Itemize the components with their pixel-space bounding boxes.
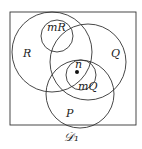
label-mQ: mQ: [78, 80, 97, 93]
label-mR: mR: [47, 21, 66, 34]
label-R: R: [22, 47, 31, 60]
label-P: P: [65, 107, 74, 120]
caption: 𝒟₁: [64, 130, 79, 144]
label-Q: Q: [111, 47, 120, 60]
venn-diagram: mR R Q n mQ P 𝒟₁: [0, 0, 142, 149]
label-n: n: [75, 58, 82, 71]
